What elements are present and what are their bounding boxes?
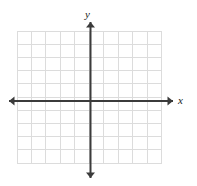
y-axis-down-arrow-icon <box>86 173 95 179</box>
x-axis-right-arrow-icon <box>168 97 174 106</box>
x-axis-label: x <box>178 95 183 106</box>
grid-lines <box>17 31 162 163</box>
x-axis-left-arrow-icon <box>9 97 15 106</box>
coordinate-plane-figure: y x <box>0 0 197 186</box>
y-axis-up-arrow-icon <box>86 22 95 28</box>
y-axis-label: y <box>85 9 90 20</box>
coordinate-plane-svg <box>0 0 197 186</box>
axis-lines <box>9 22 173 178</box>
